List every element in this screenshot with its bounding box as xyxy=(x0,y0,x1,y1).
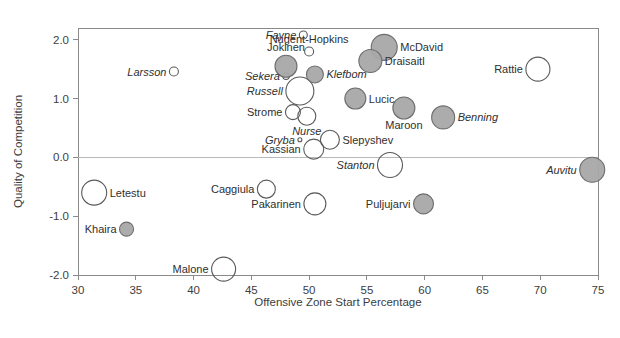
data-label-kassian: Kassian xyxy=(262,143,301,155)
x-tick-label: 55 xyxy=(360,284,373,296)
y-tick-label: 1.0 xyxy=(53,93,69,105)
data-point-benning[interactable] xyxy=(432,106,455,129)
data-label-slepyshev: Slepyshev xyxy=(342,134,393,146)
plot-canvas: 2.01.00.0-1.0-2.030354045505560657075Off… xyxy=(0,0,620,338)
data-label-caggiula: Caggiula xyxy=(211,183,255,195)
x-tick-label: 60 xyxy=(418,284,431,296)
data-label-benning: Benning xyxy=(458,111,499,123)
x-tick-label: 40 xyxy=(187,284,200,296)
data-label-auvitu: Auvitu xyxy=(545,164,577,176)
data-label-stanton: Stanton xyxy=(337,159,375,171)
data-label-malone: Malone xyxy=(173,263,209,275)
x-tick-label: 35 xyxy=(129,284,142,296)
data-point-malone[interactable] xyxy=(212,257,236,281)
data-point-klefbom[interactable] xyxy=(306,66,323,83)
x-tick-label: 30 xyxy=(72,284,85,296)
data-point-letestu[interactable] xyxy=(82,180,107,205)
data-point-pakarinen[interactable] xyxy=(304,193,326,215)
scatter-chart: 2.01.00.0-1.0-2.030354045505560657075Off… xyxy=(0,0,620,338)
y-tick-label: -1.0 xyxy=(49,210,69,222)
x-tick-label: 50 xyxy=(303,284,316,296)
data-point-nugent-hopkins[interactable] xyxy=(305,47,314,56)
data-label-rattie: Rattie xyxy=(494,63,523,75)
data-point-nurse[interactable] xyxy=(298,107,316,125)
data-label-lucic: Lucic xyxy=(369,93,395,105)
data-label-mcdavid: McDavid xyxy=(400,41,443,53)
data-label-nurse: Nurse xyxy=(292,125,321,137)
data-label-russell: Russell xyxy=(247,85,284,97)
x-tick-label: 65 xyxy=(476,284,489,296)
data-label-jokinen: Jokinen xyxy=(267,41,305,53)
data-point-gryba[interactable] xyxy=(298,138,302,142)
data-label-letestu: Letestu xyxy=(110,187,146,199)
data-label-larsson: Larsson xyxy=(127,66,166,78)
x-tick-label: 75 xyxy=(592,284,605,296)
data-label-draisaitl: Draisaitl xyxy=(385,55,425,67)
data-point-maroon[interactable] xyxy=(393,97,415,119)
data-point-khaira[interactable] xyxy=(120,222,134,236)
y-tick-label: 2.0 xyxy=(53,34,69,46)
data-label-khaira: Khaira xyxy=(85,223,118,235)
data-point-puljujarvi[interactable] xyxy=(414,194,434,214)
data-label-maroon: Maroon xyxy=(385,119,422,131)
data-point-larsson[interactable] xyxy=(169,67,178,76)
data-point-stanton[interactable] xyxy=(378,153,403,178)
y-axis-title: Quality of Competition xyxy=(12,95,24,208)
data-label-pakarinen: Pakarinen xyxy=(251,198,301,210)
data-label-sekera: Sekera xyxy=(245,70,280,82)
data-point-caggiula[interactable] xyxy=(257,180,275,198)
data-label-klefbom: Klefbom xyxy=(326,68,366,80)
data-point-auvitu[interactable] xyxy=(580,157,605,182)
x-axis-title: Offensive Zone Start Percentage xyxy=(254,296,421,308)
data-label-strome: Strome xyxy=(247,106,282,118)
data-label-puljujarvi: Puljujarvi xyxy=(366,198,411,210)
y-tick-label: 0.0 xyxy=(53,151,69,163)
data-point-kassian[interactable] xyxy=(304,139,324,159)
data-point-lucic[interactable] xyxy=(345,88,366,109)
data-point-rattie[interactable] xyxy=(526,57,550,81)
x-tick-label: 45 xyxy=(245,284,258,296)
x-tick-label: 70 xyxy=(534,284,547,296)
y-tick-label: -2.0 xyxy=(49,269,69,281)
